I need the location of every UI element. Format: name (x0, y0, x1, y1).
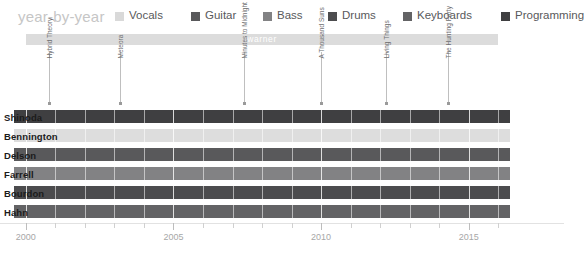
gridline (262, 186, 263, 199)
gridline (55, 186, 56, 199)
gridline (203, 129, 204, 142)
gridline (203, 167, 204, 180)
gridline (439, 186, 440, 199)
gridline (173, 148, 174, 161)
gridline (469, 148, 470, 161)
axis-tick-label: 2015 (459, 232, 479, 242)
gridline (498, 186, 499, 199)
gridline (498, 129, 499, 142)
gridline (114, 186, 115, 199)
gridline (439, 129, 440, 142)
gridline (469, 167, 470, 180)
gridline (262, 110, 263, 123)
axis-tick-minor (439, 223, 440, 228)
gridline (262, 129, 263, 142)
gridline (144, 129, 145, 142)
gridline (233, 167, 234, 180)
gridline (469, 110, 470, 123)
gridline (203, 110, 204, 123)
gridline (380, 148, 381, 161)
gridline (203, 186, 204, 199)
axis-tick-minor (203, 223, 204, 228)
gridline (292, 110, 293, 123)
gridline (292, 148, 293, 161)
gridline (439, 148, 440, 161)
gridline (85, 110, 86, 123)
gridline (144, 186, 145, 199)
axis-tick-minor (498, 223, 499, 228)
gridline (233, 205, 234, 218)
gridline (55, 205, 56, 218)
gridline (410, 129, 411, 142)
axis-tick-major (26, 223, 27, 230)
gridline (114, 148, 115, 161)
gridline (410, 167, 411, 180)
gridline (85, 186, 86, 199)
axis-tick-major (469, 223, 470, 230)
gridline (114, 129, 115, 142)
member-name-label: Shinoda (4, 111, 42, 122)
gridline (144, 205, 145, 218)
gridline (469, 186, 470, 199)
gridline (498, 148, 499, 161)
gridline (233, 110, 234, 123)
member-row[interactable]: Bourdon (0, 186, 564, 199)
gridline (292, 129, 293, 142)
gridline (410, 205, 411, 218)
gridline (173, 167, 174, 180)
gridline (144, 167, 145, 180)
gridline (321, 110, 322, 123)
gridline (262, 167, 263, 180)
axis-tick-label: 2010 (311, 232, 331, 242)
axis-tick-label: 2005 (163, 232, 183, 242)
axis-tick-minor (292, 223, 293, 228)
gridline (55, 110, 56, 123)
member-name-label: Delson (4, 149, 36, 160)
gridline (173, 205, 174, 218)
member-name-label: Farrell (4, 168, 34, 179)
member-row[interactable]: Shinoda (0, 110, 564, 123)
member-row[interactable]: Hahn (0, 205, 564, 218)
gridline (498, 205, 499, 218)
gridline (144, 148, 145, 161)
gridline (173, 110, 174, 123)
gridline (233, 148, 234, 161)
gridline (351, 148, 352, 161)
gridline (439, 110, 440, 123)
gridline (321, 129, 322, 142)
gridline (380, 205, 381, 218)
gridline (292, 205, 293, 218)
axis-tick-minor (144, 223, 145, 228)
gridline (203, 205, 204, 218)
gridline (380, 129, 381, 142)
x-axis: 2000200520102015 (0, 223, 564, 253)
axis-tick-minor (55, 223, 56, 228)
gridline (55, 167, 56, 180)
gridline (439, 167, 440, 180)
gridline (85, 205, 86, 218)
axis-tick-minor (410, 223, 411, 228)
gridline (439, 205, 440, 218)
gridline (469, 129, 470, 142)
axis-tick-minor (233, 223, 234, 228)
gridline (233, 129, 234, 142)
gridline (380, 186, 381, 199)
gridline (498, 110, 499, 123)
member-row[interactable]: Farrell (0, 167, 564, 180)
gridline (292, 186, 293, 199)
gridline (114, 110, 115, 123)
gridline (233, 186, 234, 199)
gridline (114, 167, 115, 180)
gridline (351, 129, 352, 142)
axis-tick-label: 2000 (16, 232, 36, 242)
member-row[interactable]: Bennington (0, 129, 564, 142)
axis-tick-minor (380, 223, 381, 228)
member-name-label: Hahn (4, 206, 28, 217)
member-row[interactable]: Delson (0, 148, 564, 161)
axis-tick-minor (351, 223, 352, 228)
gridline (321, 205, 322, 218)
gridline (203, 148, 204, 161)
member-name-label: Bourdon (4, 187, 44, 198)
member-name-label: Bennington (4, 130, 58, 141)
